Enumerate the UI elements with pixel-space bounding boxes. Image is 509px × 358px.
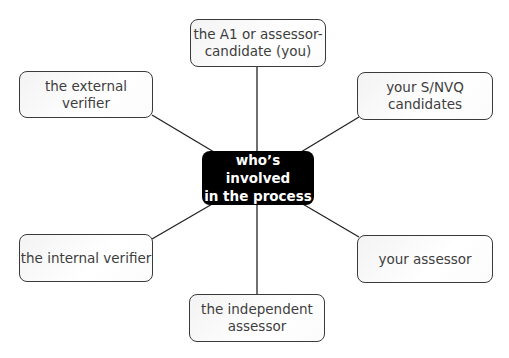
node-label: your assessor — [378, 251, 471, 268]
center-label: who’s involved in the process — [202, 151, 314, 205]
node-label: the external verifier — [20, 78, 152, 112]
node-label: the internal verifier — [21, 250, 152, 267]
node-internal-verifier: the internal verifier — [19, 234, 153, 282]
connector-upper-right — [301, 117, 359, 152]
connector-upper-left — [152, 115, 214, 152]
node-independent-assessor: the independent assessor — [189, 294, 325, 342]
node-your-assessor: your assessor — [357, 235, 493, 283]
connector-lower-left — [152, 203, 214, 239]
node-assessor-candidate: the A1 or assessor- candidate (you) — [190, 19, 326, 67]
center-node: who’s involved in the process — [202, 151, 314, 205]
node-label: your S/NVQ candidates — [386, 79, 464, 113]
node-label: the independent assessor — [201, 301, 313, 335]
node-snvq-candidates: your S/NVQ candidates — [357, 72, 493, 120]
connector-lower-right — [301, 203, 359, 237]
node-external-verifier: the external verifier — [19, 71, 153, 118]
node-label: the A1 or assessor- candidate (you) — [193, 26, 322, 60]
